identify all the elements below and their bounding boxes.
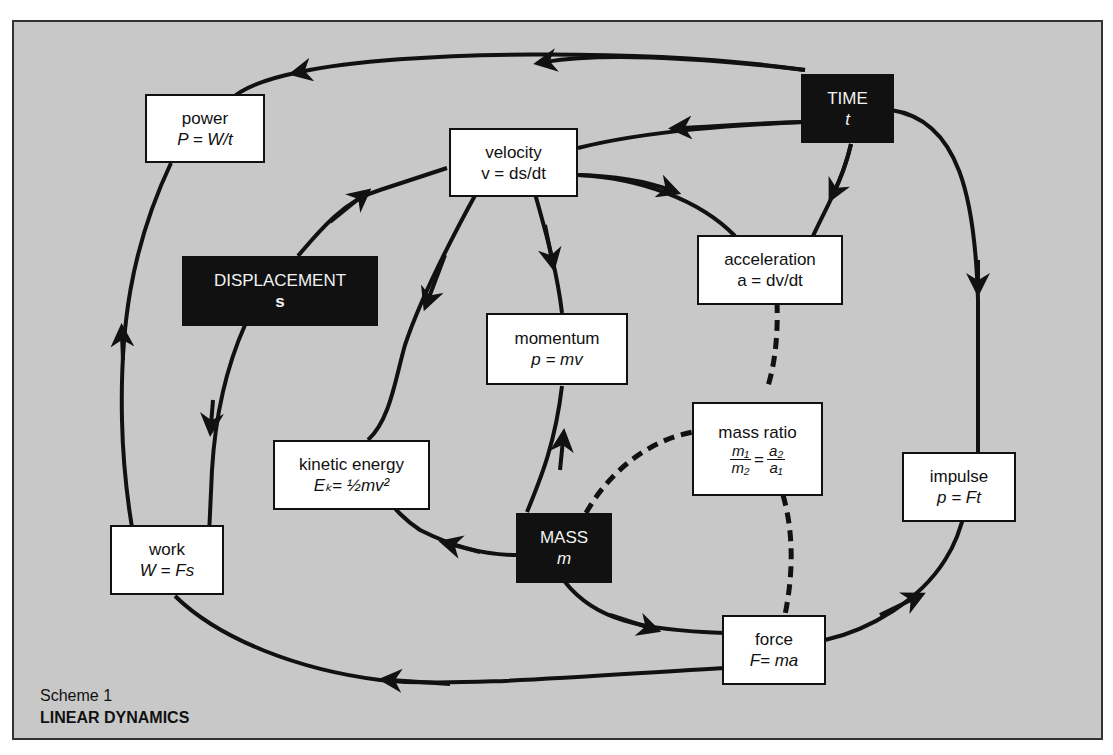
- node-mass: MASS m: [516, 513, 612, 583]
- dashed-link-mass-massratio: [586, 432, 693, 513]
- dashed-link-massratio-force: [783, 495, 791, 615]
- node-mass-symbol: m: [557, 548, 571, 569]
- node-momentum: momentum p = mv: [486, 313, 628, 385]
- link-mass-momentum: [527, 386, 562, 512]
- node-velocity: velocity v = ds/dt: [449, 128, 578, 197]
- node-mass-ratio: mass ratio m₁ m₂ = a₂ a₁: [692, 402, 823, 496]
- node-force-label: force: [755, 629, 793, 650]
- link-displacement-work: [208, 325, 245, 557]
- node-impulse-formula: p = Ft: [937, 487, 981, 508]
- node-displacement: DISPLACEMENT s: [182, 256, 378, 326]
- node-work: work W = Fs: [110, 525, 224, 595]
- node-work-formula: W = Fs: [140, 560, 194, 581]
- node-power-label: power: [182, 108, 228, 129]
- link-time-impulse: [891, 110, 978, 453]
- node-impulse: impulse p = Ft: [902, 452, 1016, 522]
- node-velocity-formula: v = ds/dt: [481, 163, 546, 184]
- link-velocity-momentum: [534, 190, 562, 313]
- node-work-label: work: [149, 539, 185, 560]
- node-momentum-formula: p = mv: [531, 349, 583, 370]
- node-kinetic-energy-label: kinetic energy: [299, 454, 404, 475]
- fraction-a2-a1: a₂ a₁: [767, 443, 785, 476]
- node-time-symbol: t: [845, 109, 850, 130]
- node-time: TIME t: [801, 74, 894, 143]
- node-mass-ratio-formula: m₁ m₂ = a₂ a₁: [727, 443, 788, 476]
- fraction-m1-m2: m₁ m₂: [730, 443, 751, 476]
- node-acceleration: acceleration a = dv/dt: [697, 235, 843, 305]
- node-impulse-label: impulse: [930, 466, 989, 487]
- node-velocity-label: velocity: [485, 142, 542, 163]
- link-force-work: [175, 596, 724, 683]
- node-force: force F= ma: [722, 615, 826, 685]
- node-force-formula: F= ma: [750, 650, 799, 671]
- link-displacement-velocity: [298, 168, 447, 256]
- caption-title: LINEAR DYNAMICS: [40, 707, 189, 729]
- node-displacement-label: DISPLACEMENT: [214, 270, 346, 291]
- dashed-link-acceleration-massratio: [768, 302, 777, 386]
- node-kinetic-energy-formula: Eₖ= ½mv²: [314, 475, 390, 496]
- link-velocity-kinetic-energy: [368, 190, 478, 440]
- node-acceleration-formula: a = dv/dt: [737, 270, 803, 291]
- caption-scheme: Scheme 1: [40, 685, 189, 707]
- node-acceleration-label: acceleration: [724, 249, 816, 270]
- node-time-label: TIME: [827, 88, 868, 109]
- node-power: power P = W/t: [145, 94, 265, 163]
- link-work-power: [122, 163, 171, 556]
- node-mass-label: MASS: [540, 527, 588, 548]
- node-displacement-symbol: s: [275, 291, 284, 312]
- node-power-formula: P = W/t: [177, 129, 233, 150]
- node-momentum-label: momentum: [514, 328, 599, 349]
- node-kinetic-energy: kinetic energy Eₖ= ½mv²: [273, 440, 430, 510]
- node-mass-ratio-label: mass ratio: [718, 422, 796, 443]
- caption: Scheme 1 LINEAR DYNAMICS: [40, 685, 189, 729]
